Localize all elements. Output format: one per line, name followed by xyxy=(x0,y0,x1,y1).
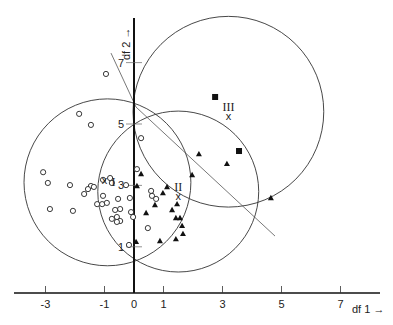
point-group-i xyxy=(149,188,154,193)
point-group-i xyxy=(131,214,136,219)
point-group-ii xyxy=(174,201,180,206)
point-group-i xyxy=(113,207,118,212)
point-group-ii xyxy=(152,202,158,207)
x-tick-label: 0 xyxy=(131,298,137,310)
point-group-i xyxy=(67,182,72,187)
point-group-ii xyxy=(173,236,179,241)
data-points xyxy=(41,71,274,247)
point-group-ii xyxy=(224,161,230,166)
axis-ticks: -3-1013571357 xyxy=(41,57,344,310)
point-group-i xyxy=(138,136,143,141)
axes: df 1 → df 2 → xyxy=(14,18,384,315)
point-group-ii xyxy=(173,215,179,220)
point-group-ii xyxy=(169,207,175,212)
point-group-i xyxy=(95,202,100,207)
point-group-ii xyxy=(143,210,149,215)
point-group-i xyxy=(47,206,52,211)
x-tick-label: 3 xyxy=(219,298,225,310)
x-tick-label: 1 xyxy=(160,298,166,310)
point-group-i xyxy=(128,210,133,215)
x-tick-label: -1 xyxy=(100,298,110,310)
centroid-label: III xyxy=(222,100,234,114)
point-group-i xyxy=(154,196,159,201)
point-group-ii xyxy=(138,171,144,176)
point-group-i xyxy=(104,200,109,205)
y-tick-label: 7 xyxy=(118,57,124,69)
point-group-i xyxy=(70,208,75,213)
point-group-i xyxy=(126,242,131,247)
point-group-iii xyxy=(212,94,218,100)
point-group-ii xyxy=(180,231,186,236)
point-group-i xyxy=(114,219,119,224)
y-tick-label: 5 xyxy=(118,118,124,130)
y-tick-label: 1 xyxy=(118,241,124,253)
group-territory-circles xyxy=(24,16,324,272)
point-group-i xyxy=(134,167,139,172)
point-group-i xyxy=(115,196,120,201)
point-group-iii xyxy=(236,148,242,154)
x-tick-label: -3 xyxy=(41,298,51,310)
point-group-i xyxy=(91,184,96,189)
y-axis-label: df 2 → xyxy=(120,28,132,60)
point-group-i xyxy=(88,122,93,127)
point-group-i xyxy=(45,180,50,185)
point-group-i xyxy=(123,182,128,187)
x-tick-label: 5 xyxy=(278,298,284,310)
boundary-lines xyxy=(111,53,275,236)
point-group-i xyxy=(103,71,108,76)
centroid-label: II xyxy=(174,180,182,194)
centroid-marker: x xyxy=(102,174,108,186)
point-group-i xyxy=(118,206,123,211)
boundary-line-2 xyxy=(136,107,275,236)
point-group-ii xyxy=(196,151,202,156)
point-group-ii xyxy=(157,238,163,243)
point-group-i xyxy=(82,191,87,196)
point-group-ii xyxy=(160,190,166,195)
point-group-i xyxy=(109,216,114,221)
point-group-i xyxy=(85,186,90,191)
discriminant-scatter-chart: df 1 → df 2 → -3-1013571357 xIxIIxIII xyxy=(0,0,393,325)
x-tick-label: 7 xyxy=(337,298,343,310)
x-axis-label: df 1 → xyxy=(352,303,384,315)
point-group-i xyxy=(145,225,150,230)
point-group-i xyxy=(100,193,105,198)
centroid-label: I xyxy=(111,175,115,189)
point-group-i xyxy=(77,111,82,116)
point-group-i xyxy=(41,170,46,175)
point-group-i xyxy=(127,195,132,200)
